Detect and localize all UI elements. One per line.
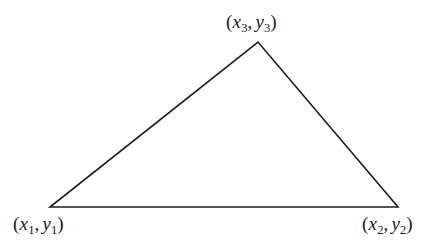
x-variable-v1: x	[20, 213, 29, 234]
triangle-outline	[50, 42, 398, 207]
vertex-label-v3: (x3,y3)	[226, 11, 277, 39]
paren-close-v3: )	[270, 11, 277, 32]
x-variable-v3: x	[233, 11, 242, 32]
triangle-shape	[0, 0, 448, 248]
paren-close-v1: )	[57, 213, 64, 234]
comma-v1: ,	[34, 213, 39, 234]
vertex-label-v2: (x2,y2)	[362, 213, 413, 241]
paren-close-v2: )	[406, 213, 413, 234]
x-variable-v2: x	[369, 213, 378, 234]
y-variable-v3: y	[255, 11, 264, 32]
y-variable-v2: y	[391, 213, 400, 234]
triangle-figure: (x3,y3) (x1,y1) (x2,y2)	[0, 0, 448, 248]
vertex-label-v1: (x1,y1)	[13, 213, 64, 241]
y-variable-v1: y	[42, 213, 51, 234]
comma-v3: ,	[247, 11, 252, 32]
comma-v2: ,	[383, 213, 388, 234]
